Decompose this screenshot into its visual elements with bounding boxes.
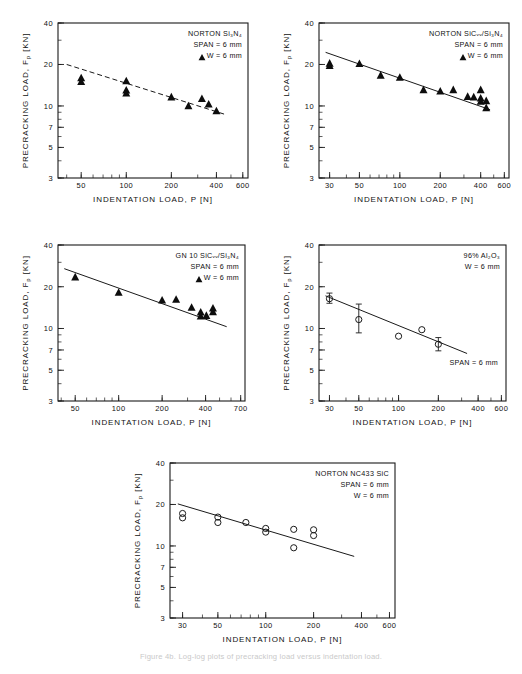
legend-line: NORTON NC433 SiC [315, 469, 389, 478]
legend-line: SPAN = 6 mm [341, 480, 390, 489]
x-tick-label: 50 [355, 181, 364, 190]
y-tick-label: 10 [156, 542, 165, 551]
y-tick-label: 40 [44, 241, 53, 250]
data-point-circle [291, 526, 297, 532]
plot-svg-4: 3571020403050100200400600NORTON NC433 Si… [120, 440, 420, 655]
x-tick-label: 200 [155, 404, 169, 413]
plot-annotation: SPAN = 6 mm [450, 358, 499, 367]
y-tick-label: 40 [305, 19, 314, 28]
fit-line [326, 296, 468, 354]
x-tick-label: 200 [307, 621, 321, 630]
y-axis-label: PRECRACKING LOAD, Fp [KN] [133, 473, 143, 609]
data-point-triangle [470, 93, 478, 101]
legend-marker-triangle [196, 276, 203, 282]
data-point-triangle [184, 102, 192, 110]
legend-line: W = 6 mm [468, 51, 503, 60]
data-point-triangle [205, 100, 213, 108]
y-tick-label: 5 [309, 143, 314, 152]
y-tick-label: 10 [44, 324, 53, 333]
y-axis-label: PRECRACKING LOAD, Fp [KN] [21, 33, 31, 169]
y-tick-label: 20 [156, 500, 165, 509]
y-tick-label: 5 [160, 583, 165, 592]
x-tick-label: 400 [199, 404, 213, 413]
x-tick-label: 200 [431, 404, 445, 413]
x-tick-label: 700 [234, 404, 248, 413]
x-tick-label: 30 [325, 404, 334, 413]
x-tick-label: 50 [213, 621, 222, 630]
legend-line: NORTON SiCᵥᵥ/Si₃N₄ [429, 29, 503, 38]
y-tick-label: 7 [309, 123, 314, 132]
data-point-triangle [449, 86, 457, 94]
x-tick-label: 600 [495, 404, 509, 413]
x-tick-label: 50 [77, 181, 86, 190]
y-tick-label: 10 [44, 102, 53, 111]
x-tick-label: 100 [392, 404, 406, 413]
figure-caption-faint: Figure 4b. Log-log plots of precracking … [0, 652, 522, 661]
plot-panel-al2o3-96: 357102040305010020040060096% Al₂O₃W = 6 … [261, 205, 522, 433]
x-tick-label: 100 [259, 621, 273, 630]
y-tick-label: 20 [44, 283, 53, 292]
legend-marker-triangle [199, 54, 206, 60]
x-axis-label: INDENTATION LOAD, P [N] [223, 635, 343, 644]
x-tick-label: 600 [497, 181, 511, 190]
legend-line: SPAN = 6 mm [455, 40, 504, 49]
svg-text:PRECRACKING LOAD, Fp [KN]: PRECRACKING LOAD, Fp [KN] [21, 255, 31, 391]
y-tick-label: 7 [160, 563, 165, 572]
x-tick-label: 600 [236, 181, 250, 190]
fit-line [326, 52, 490, 109]
x-tick-label: 400 [471, 404, 485, 413]
legend-line: SPAN = 6 mm [191, 262, 240, 271]
plot-svg-2: 35710204050100200400700GN 10 SiCᵥᵥ/Si₃N₄… [0, 205, 261, 433]
data-point-circle [243, 519, 249, 525]
x-axis-label: INDENTATION LOAD, P [N] [92, 418, 212, 427]
x-tick-label: 400 [210, 181, 224, 190]
legend-line: GN 10 SiCᵥᵥ/Si₃N₄ [175, 251, 239, 260]
y-tick-label: 20 [305, 283, 314, 292]
data-point-triangle [198, 94, 206, 102]
plot-svg-1: 3571020403050100200400600NORTON SiCᵥᵥ/Si… [261, 0, 522, 205]
y-tick-label: 5 [48, 143, 53, 152]
legend-line: W = 6 mm [207, 51, 242, 60]
y-axis-label: PRECRACKING LOAD, Fp [KN] [282, 33, 292, 169]
y-tick-label: 40 [305, 241, 314, 250]
y-tick-label: 20 [44, 60, 53, 69]
data-point-triangle [464, 92, 472, 100]
y-axis-label: PRECRACKING LOAD, Fp [KN] [282, 255, 292, 391]
data-point-triangle [172, 295, 180, 303]
x-tick-label: 200 [433, 181, 447, 190]
y-tick-label: 20 [305, 60, 314, 69]
data-point-triangle [477, 86, 485, 94]
y-tick-label: 40 [156, 459, 165, 468]
y-tick-label: 10 [305, 324, 314, 333]
y-tick-label: 7 [48, 123, 53, 132]
svg-text:PRECRACKING LOAD, Fp [KN]: PRECRACKING LOAD, Fp [KN] [282, 33, 292, 169]
x-tick-label: 400 [355, 621, 369, 630]
plot-panel-norton-sicw-si3n4: 3571020403050100200400600NORTON SiCᵥᵥ/Si… [261, 0, 522, 205]
y-tick-label: 3 [48, 397, 53, 406]
x-tick-label: 50 [354, 404, 363, 413]
plot-svg-0: 35710204050100200400600NORTON Si₃N₄SPAN … [0, 0, 261, 205]
y-tick-label: 5 [309, 366, 314, 375]
plot-panel-norton-si3n4: 35710204050100200400600NORTON Si₃N₄SPAN … [0, 0, 261, 205]
y-tick-label: 5 [48, 366, 53, 375]
x-tick-label: 600 [383, 621, 397, 630]
data-point-circle [419, 327, 425, 333]
y-tick-label: 10 [305, 102, 314, 111]
x-tick-label: 100 [119, 181, 133, 190]
plot-panel-norton-nc433-sic: 3571020403050100200400600NORTON NC433 Si… [120, 440, 420, 655]
y-tick-label: 40 [44, 19, 53, 28]
svg-text:PRECRACKING LOAD, Fp [KN]: PRECRACKING LOAD, Fp [KN] [133, 473, 143, 609]
y-tick-label: 3 [309, 397, 314, 406]
legend-line: W = 6 mm [354, 491, 389, 500]
y-tick-label: 7 [48, 346, 53, 355]
data-point-triangle [77, 77, 85, 85]
data-point-circle [395, 333, 401, 339]
y-tick-label: 3 [309, 174, 314, 183]
fit-line [178, 504, 354, 557]
plot-svg-3: 357102040305010020040060096% Al₂O₃W = 6 … [261, 205, 522, 433]
svg-text:PRECRACKING LOAD, Fp [KN]: PRECRACKING LOAD, Fp [KN] [282, 255, 292, 391]
y-tick-label: 3 [160, 614, 165, 623]
data-point-triangle [419, 86, 427, 94]
x-tick-label: 400 [474, 181, 488, 190]
plot-panel-gn10-sicw-si3n4: 35710204050100200400700GN 10 SiCᵥᵥ/Si₃N₄… [0, 205, 261, 433]
